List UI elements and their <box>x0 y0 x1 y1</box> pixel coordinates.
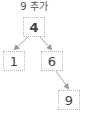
tree-node-4: 4 <box>23 17 45 37</box>
node-label: 6 <box>48 54 56 69</box>
tree-node-6: 6 <box>41 51 63 71</box>
node-label: 4 <box>29 20 38 35</box>
node-label: 9 <box>65 93 73 108</box>
edge-6-to-9 <box>56 71 68 88</box>
tree-node-9: 9 <box>58 90 80 110</box>
edge-4-to-6 <box>40 37 51 49</box>
node-label: 1 <box>10 54 18 69</box>
tree-node-1: 1 <box>3 51 25 71</box>
edge-4-to-1 <box>15 37 28 49</box>
